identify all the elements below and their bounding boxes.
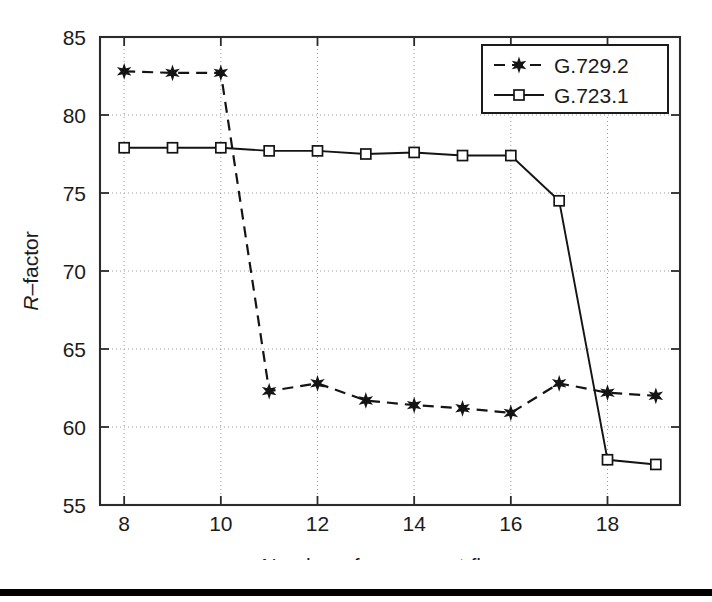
marker-G-723-1 <box>119 143 129 153</box>
x-tick-label: 18 <box>596 512 619 535</box>
x-tick-label: 12 <box>306 512 329 535</box>
y-tick-label: 80 <box>63 104 86 127</box>
y-axis-title: R–factor <box>19 231 42 310</box>
marker-G-729-2 <box>506 407 516 419</box>
marker-G-723-1 <box>264 146 274 156</box>
y-tick-label: 60 <box>63 416 86 439</box>
legend-label-G-723-1: G.723.1 <box>554 84 629 107</box>
y-tick-label: 70 <box>63 260 86 283</box>
r-factor-line-chart: 8101214161855606570758085Number of concu… <box>0 0 712 560</box>
series-line-G-729-2 <box>124 71 656 413</box>
series-line-G-723-1 <box>124 148 656 465</box>
x-tick-label: 10 <box>209 512 232 535</box>
x-tick-label: 16 <box>499 512 522 535</box>
x-axis-title: Number of concurrent flows <box>262 554 519 560</box>
marker-G-723-1 <box>651 459 661 469</box>
marker-G-723-1 <box>216 143 226 153</box>
y-tick-label: 85 <box>63 26 86 49</box>
marker-G-723-1 <box>409 147 419 157</box>
figure-container: 8101214161855606570758085Number of concu… <box>0 0 712 602</box>
marker-G-723-1 <box>603 455 613 465</box>
y-tick-label: 55 <box>63 494 86 517</box>
x-tick-label: 8 <box>118 512 130 535</box>
marker-G-729-2 <box>312 377 322 389</box>
y-tick-label: 75 <box>63 182 86 205</box>
marker-G-723-1 <box>458 151 468 161</box>
marker-G-723-1 <box>313 146 323 156</box>
legend-marker-G-723-1 <box>514 90 524 100</box>
marker-G-723-1 <box>361 149 371 159</box>
marker-G-723-1 <box>554 196 564 206</box>
marker-G-723-1 <box>506 151 516 161</box>
legend-label-G-729-2: G.729.2 <box>554 54 629 77</box>
x-tick-label: 14 <box>402 512 426 535</box>
marker-G-723-1 <box>168 143 178 153</box>
y-tick-label: 65 <box>63 338 86 361</box>
page-bottom-rule <box>0 589 712 596</box>
